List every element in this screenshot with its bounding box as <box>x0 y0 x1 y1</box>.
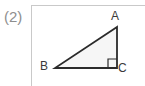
vertex-label-c: C <box>118 62 127 75</box>
figure-page: (2) A B C <box>0 0 145 86</box>
vertex-label-a: A <box>111 10 119 23</box>
vertex-label-b: B <box>40 60 48 73</box>
